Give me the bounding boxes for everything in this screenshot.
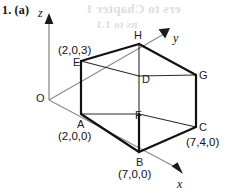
- vertex-label-G: G: [199, 70, 208, 81]
- axis-label-y: y: [173, 32, 178, 44]
- edge-E-D: [81, 61, 139, 76]
- vertex-coord-C: (7,4,0): [186, 137, 219, 149]
- vertex-label-O: O: [36, 93, 45, 104]
- figure-root: ers to Chapter 1 ns to 1.1 1. (a): [0, 0, 239, 195]
- vertex-label-E: E: [73, 57, 80, 68]
- z-axis-arrowhead: [45, 13, 54, 24]
- vertex-label-D: D: [142, 74, 150, 85]
- axis-label-z: z: [38, 7, 43, 19]
- vertex-coord-B: (7,0,0): [118, 169, 151, 181]
- vertex-label-A: A: [77, 119, 84, 130]
- vertex-label-H: H: [134, 30, 142, 41]
- vertex-label-F: F: [135, 110, 142, 121]
- vertex-coord-A: (2,0,0): [58, 131, 91, 143]
- edge-H-G: [139, 44, 196, 75]
- question-number: 1. (a): [2, 3, 29, 18]
- vertex-label-C: C: [199, 122, 207, 133]
- vertex-label-B: B: [136, 157, 143, 168]
- x-axis-arrowhead: [172, 162, 183, 174]
- axis-arrowheads: [45, 13, 183, 174]
- y-axis-arrowhead: [159, 28, 171, 38]
- edge-F-C: [139, 114, 196, 127]
- vertex-coord-E: (2,0,3): [58, 45, 91, 57]
- axis-label-x: x: [177, 178, 182, 190]
